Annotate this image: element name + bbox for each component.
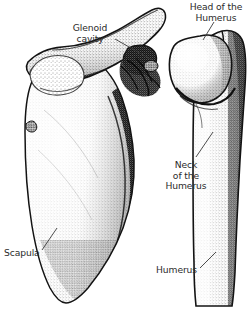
anatomical-figure: Head of the Humerus Glenoid cavity Neck …: [0, 0, 252, 322]
bone-illustration: [0, 0, 252, 322]
scapula-medial-nub: [26, 121, 37, 132]
supraspinous-fossa: [30, 55, 84, 95]
